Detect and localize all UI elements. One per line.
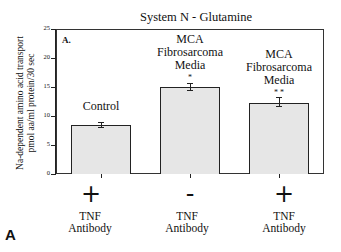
y-tick-label: 5	[36, 140, 50, 147]
bar-label-mca-2: MCA Fibrosarcoma Media	[229, 48, 329, 87]
y-tick-label: 15	[36, 82, 50, 89]
y-tick-15	[51, 87, 55, 88]
y-tick-5	[51, 145, 55, 146]
x-tick	[101, 174, 102, 178]
y-axis-label-line-1: Na-dependent amino acid transport	[15, 13, 26, 193]
x-label-line: Antibody	[152, 222, 222, 234]
x-tick	[190, 174, 191, 178]
tnf-antibody-sign-plus: +	[264, 182, 304, 206]
bar-label-control: Control	[71, 100, 131, 113]
y-tick-label: 20	[36, 53, 50, 60]
y-tick-0	[51, 174, 55, 175]
error-cap	[98, 122, 104, 123]
x-label-line: Antibody	[249, 222, 319, 234]
x-label-line: TNF	[249, 210, 319, 222]
x-label-line: TNF	[55, 210, 125, 222]
bar-label-line: Media	[229, 74, 329, 87]
tnf-antibody-sign-minus: -	[170, 182, 210, 206]
y-tick-label: 25	[36, 24, 50, 31]
x-tick	[279, 174, 280, 178]
bar-mca-media-no-antibody	[160, 87, 220, 174]
y-tick-25	[51, 29, 55, 30]
panel-label: A.	[62, 35, 71, 45]
error-cap	[98, 127, 104, 128]
error-cap	[276, 106, 282, 107]
y-axis-label: Na-dependent amino acid transport pmol a…	[15, 13, 37, 193]
significance-marker: * *	[249, 88, 309, 97]
x-label-tnf-antibody: TNF Antibody	[249, 210, 319, 234]
figure-label: A	[5, 226, 16, 243]
y-axis-label-line-2: pmol aa/ml protein/30 sec	[26, 13, 37, 193]
error-cap	[187, 83, 193, 84]
chart-title: System N - Glutamine	[140, 10, 252, 25]
y-axis	[55, 29, 56, 175]
significance-marker: *	[160, 73, 220, 82]
error-cap	[187, 90, 193, 91]
x-label-line: TNF	[152, 210, 222, 222]
bar-label-mca-1: MCA Fibrosarcoma Media	[140, 33, 240, 72]
bar-mca-media-with-antibody	[249, 103, 309, 174]
y-tick-label: 0	[36, 169, 50, 176]
y-tick-20	[51, 58, 55, 59]
bar-label-line: Media	[140, 59, 240, 72]
y-tick-10	[51, 116, 55, 117]
tnf-antibody-sign-plus: +	[71, 182, 111, 206]
x-label-line: Antibody	[55, 222, 125, 234]
bar-control	[71, 125, 131, 174]
error-cap	[276, 97, 282, 98]
x-label-tnf-antibody: TNF Antibody	[152, 210, 222, 234]
y-tick-label: 10	[36, 111, 50, 118]
x-label-tnf-antibody: TNF Antibody	[55, 210, 125, 234]
